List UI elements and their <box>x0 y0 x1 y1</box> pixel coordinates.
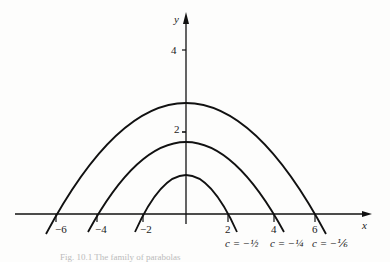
y-tick-label-4: 4 <box>171 45 177 56</box>
x-tick-label-neg2: −2 <box>140 224 152 235</box>
y-axis-label: y <box>174 14 179 25</box>
curve-label-c-neg-sixth: c = −⅙ <box>312 237 348 250</box>
y-tick-label-2: 2 <box>174 124 180 135</box>
x-tick-label-6: 6 <box>312 224 318 235</box>
y-axis-arrow-icon <box>183 12 189 24</box>
x-tick-label-neg4: −4 <box>95 224 107 235</box>
curve-label-c-neg-half: c = −½ <box>225 237 258 249</box>
x-axis-arrow-icon <box>362 211 372 217</box>
curve-label-c-neg-quarter: c = −¼ <box>270 237 303 249</box>
x-tick-label-2: 2 <box>225 224 231 235</box>
figure-caption: Fig. 10.1 The family of parabolas <box>60 252 181 262</box>
x-tick-label-neg6: −6 <box>55 224 67 235</box>
x-tick-label-4: 4 <box>271 224 277 235</box>
x-axis-label: x <box>362 220 367 231</box>
